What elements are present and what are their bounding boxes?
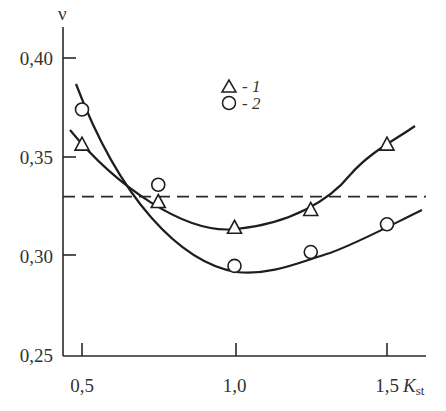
circle-marker-icon: [304, 246, 317, 259]
y-axis-label: ν: [58, 3, 67, 24]
y-tick-label: 0,30: [20, 246, 53, 267]
circle-marker-icon: [381, 218, 394, 231]
triangle-marker-icon: [222, 80, 236, 92]
circle-marker-icon: [76, 103, 89, 116]
x-tick-label: 1,0: [223, 375, 247, 396]
circle-marker-icon: [223, 97, 236, 110]
x-axis-label: Kst: [402, 375, 425, 398]
x-tick-labels: 0,51,01,5: [70, 375, 399, 396]
x-tick-label: 1,5: [375, 375, 399, 396]
legend: - 1 - 2: [222, 77, 261, 113]
y-tick-label: 0,35: [20, 147, 53, 168]
circle-marker-icon: [228, 259, 241, 272]
triangle-marker-icon: [380, 137, 394, 150]
chart: ν Kst 0,250,300,350,40 0,51,01,5 - 1 - 2: [0, 0, 446, 411]
legend-label-2: - 2: [242, 94, 261, 113]
circle-marker-icon: [152, 178, 165, 191]
series-1-markers: [75, 137, 394, 233]
y-tick-label: 0,25: [20, 345, 53, 366]
x-tick-label: 0,5: [70, 375, 94, 396]
triangle-marker-icon: [228, 220, 242, 233]
y-tick-label: 0,40: [20, 48, 53, 69]
y-tick-labels: 0,250,300,350,40: [20, 48, 53, 366]
